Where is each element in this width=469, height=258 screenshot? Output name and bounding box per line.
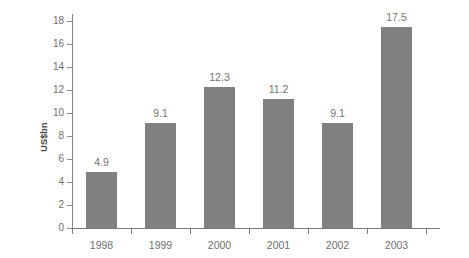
y-axis-tick (67, 136, 72, 137)
x-axis-category-label: 1998 (76, 238, 128, 252)
bar (322, 123, 353, 228)
y-axis-tick (67, 90, 72, 91)
plot-area: 024681012141618 4.99.112.311.29.117.5 19… (72, 14, 440, 229)
x-axis-category-label: 2002 (312, 238, 364, 252)
y-axis-tick (67, 113, 72, 114)
bar (145, 123, 176, 228)
bar (381, 27, 412, 228)
bar (263, 99, 294, 228)
y-axis-tick-label: 18 (53, 14, 64, 28)
x-axis-tick (131, 228, 132, 234)
bar-value-label: 9.1 (135, 107, 187, 120)
bar-value-label: 9.1 (312, 107, 364, 120)
x-axis-tick (249, 228, 250, 234)
x-axis-tick (367, 228, 368, 234)
bar (86, 172, 117, 228)
bar (204, 87, 235, 228)
y-axis-tick-label: 12 (53, 83, 64, 97)
x-axis-tick (308, 228, 309, 234)
y-axis-tick (67, 205, 72, 206)
bar-value-label: 4.9 (76, 156, 128, 169)
x-axis-line (72, 228, 440, 229)
y-axis-tick-label: 8 (58, 129, 64, 143)
bar-value-label: 11.2 (253, 83, 305, 96)
y-axis-tick-label: 10 (53, 106, 64, 120)
y-axis-tick-label: 0 (58, 221, 64, 235)
y-axis-tick (67, 159, 72, 160)
x-axis-tick (72, 228, 73, 234)
x-axis-category-label: 2003 (371, 238, 423, 252)
y-axis-tick-label: 4 (58, 175, 64, 189)
x-axis-category-label: 2001 (253, 238, 305, 252)
y-axis-title: US$bn (37, 107, 51, 167)
x-axis-category-label: 1999 (135, 238, 187, 252)
y-axis-line (72, 14, 73, 229)
bar-chart: US$bn 024681012141618 4.99.112.311.29.11… (0, 0, 469, 258)
bar-value-label: 12.3 (194, 71, 246, 84)
x-axis-tick (426, 228, 427, 234)
bar-value-label: 17.5 (371, 11, 423, 24)
y-axis-tick (67, 67, 72, 68)
y-axis-tick-label: 16 (53, 37, 64, 51)
y-axis-tick-label: 6 (58, 152, 64, 166)
y-axis-tick (67, 44, 72, 45)
y-axis-tick (67, 21, 72, 22)
y-axis-tick (67, 182, 72, 183)
x-axis-tick (190, 228, 191, 234)
y-axis-tick-label: 14 (53, 60, 64, 74)
x-axis-category-label: 2000 (194, 238, 246, 252)
y-axis-tick-label: 2 (58, 198, 64, 212)
